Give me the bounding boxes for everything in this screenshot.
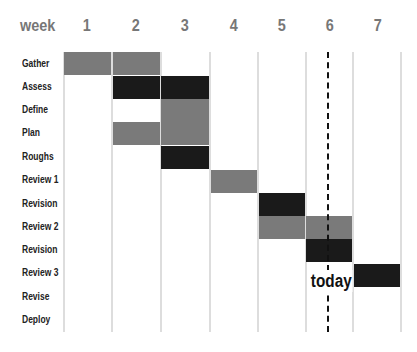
bar-review3-w7 [354, 264, 400, 287]
bar-assess-w2 [113, 76, 160, 99]
bar-assess-w3 [161, 76, 209, 99]
bar-gather-w1 [64, 52, 111, 75]
task-label: Roughs [22, 151, 54, 163]
week-1-label: 1 [83, 16, 91, 36]
task-label: Plan [22, 127, 40, 139]
bar-plan-w2 [113, 122, 160, 145]
task-label: Review 2 [22, 221, 58, 233]
task-label: Gather [22, 58, 49, 70]
gridline [257, 52, 259, 332]
bar-roughs-w3 [161, 146, 209, 169]
bar-review2-w6 [306, 216, 352, 239]
bar-define-w3 [161, 99, 209, 122]
week-5-label: 5 [278, 16, 286, 36]
bar-revision2-w6 [306, 239, 352, 262]
gridline [63, 52, 65, 332]
bar-plan-w3 [161, 122, 209, 145]
week-6-label: 6 [326, 16, 334, 36]
task-label: Revise [22, 291, 49, 303]
task-label: Review 1 [22, 174, 58, 186]
bar-revision-w5 [259, 193, 305, 216]
week-7-label: 7 [374, 16, 382, 36]
bar-review2-w5 [259, 216, 305, 239]
today-label: today [310, 270, 353, 292]
task-label: Deploy [22, 314, 50, 326]
task-label: Review 3 [22, 267, 58, 279]
task-label: Define [22, 104, 48, 116]
week-2-label: 2 [132, 16, 140, 36]
task-label: Revision [22, 244, 57, 256]
week-4-label: 4 [230, 16, 238, 36]
bar-gather-w2 [113, 52, 160, 75]
task-label: Assess [22, 81, 52, 93]
task-label: Revision [22, 198, 57, 210]
week-axis-label: week [20, 16, 55, 36]
week-3-label: 3 [181, 16, 189, 36]
gridline [400, 52, 402, 332]
bar-review1-w4 [211, 170, 257, 193]
gridline [305, 52, 307, 332]
